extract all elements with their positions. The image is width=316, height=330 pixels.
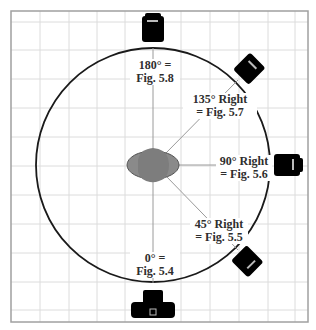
label-0: 0° = Fig. 5.4 <box>130 252 180 278</box>
label-90-line2: = Fig. 5.6 <box>218 168 270 181</box>
camera-angle-diagram: 180° = Fig. 5.8 135° Right = Fig. 5.7 90… <box>0 0 316 330</box>
camera-icon-0 <box>131 290 175 318</box>
label-135: 135° Right = Fig. 5.7 <box>183 93 257 119</box>
label-180: 180° = Fig. 5.8 <box>130 59 180 85</box>
label-45-line2: = Fig. 5.5 <box>192 231 246 244</box>
label-180-line2: Fig. 5.8 <box>132 72 178 85</box>
camera-icon-180 <box>142 13 164 42</box>
label-0-line2: Fig. 5.4 <box>132 265 178 278</box>
label-90: 90° Right = Fig. 5.6 <box>216 155 272 181</box>
subject-head-icon <box>127 148 179 182</box>
camera-icon-90 <box>274 154 303 176</box>
label-45: 45° Right = Fig. 5.5 <box>190 218 248 244</box>
label-135-line2: = Fig. 5.7 <box>185 106 255 119</box>
camera-icon-45 <box>231 245 264 278</box>
